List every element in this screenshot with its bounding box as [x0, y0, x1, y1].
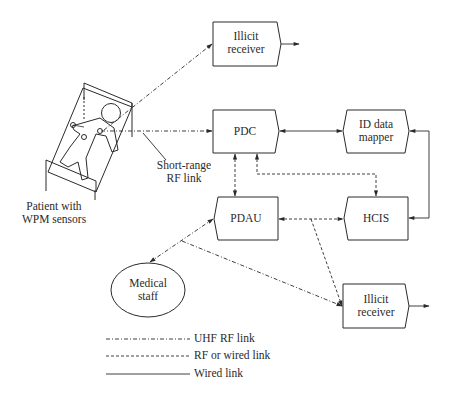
edge-staff-tap-illicit-bottom — [182, 241, 342, 306]
patient-label: Patient with WPM sensors — [14, 200, 94, 226]
edge-staff-pdau — [150, 219, 213, 262]
edge-tap-illicit-bottom — [311, 219, 342, 306]
pdc-label: PDC — [213, 125, 277, 138]
illicit-receiver-top-label: Illicit receiver — [213, 30, 279, 56]
edge-patient-illicit-top — [104, 44, 212, 130]
legend-label-rf-wired: RF or wired link — [194, 349, 270, 362]
illicit-receiver-bottom-label: Illicit receiver — [343, 293, 409, 319]
pdau-label: PDAU — [214, 212, 278, 225]
edge-pdc-hcis — [257, 154, 376, 196]
hcis-label: HCIS — [344, 212, 408, 225]
short-range-label: Short-range RF link — [154, 159, 214, 185]
patient-bed-icon — [46, 83, 132, 200]
short-range-pointer — [143, 133, 166, 160]
edge-idmapper-hcis — [409, 131, 429, 218]
medical-staff-label: Medical staff — [111, 277, 185, 303]
id-data-mapper-label: ID data mapper — [343, 118, 409, 144]
legend-label-uhf: UHF RF link — [194, 332, 255, 345]
legend-label-wired: Wired link — [194, 367, 243, 380]
